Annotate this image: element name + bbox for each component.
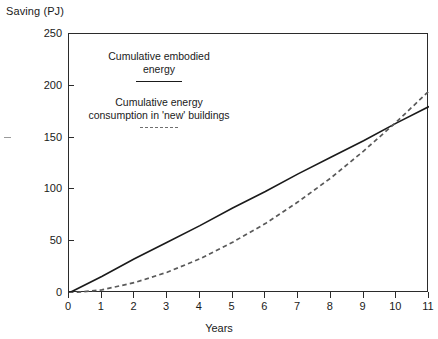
x-axis-title: Years [0,322,438,334]
x-tick-label: 3 [153,300,179,312]
legend-swatch-dashed [140,127,178,128]
x-tick-label: 8 [317,300,343,312]
x-tick-mark [166,292,167,298]
legend-label: Cumulative embodied energy [64,50,254,76]
x-tick-label: 2 [120,300,146,312]
stray-mark [4,137,11,138]
x-tick-mark [330,292,331,298]
x-tick-label: 5 [219,300,245,312]
y-tick-label: 250 [20,27,62,39]
x-tick-label: 6 [251,300,277,312]
x-tick-label: 0 [55,300,81,312]
x-tick-mark [101,292,102,298]
legend-entry-embodied-energy: Cumulative embodied energy [64,50,254,82]
y-tick-label: 50 [20,234,62,246]
x-tick-label: 1 [88,300,114,312]
y-tick-label: 100 [20,182,62,194]
x-tick-mark [297,292,298,298]
x-tick-label: 7 [284,300,310,312]
legend-label: Cumulative energy consumption in 'new' b… [64,96,254,122]
x-tick-mark [133,292,134,298]
x-tick-mark [199,292,200,298]
y-tick-label: 200 [20,79,62,91]
x-tick-label: 9 [350,300,376,312]
x-tick-mark [363,292,364,298]
x-tick-mark [264,292,265,298]
x-tick-label: 4 [186,300,212,312]
x-tick-mark [395,292,396,298]
chart-legend: Cumulative embodied energy Cumulative en… [64,50,254,142]
legend-entry-new-buildings: Cumulative energy consumption in 'new' b… [64,96,254,128]
x-tick-label: 10 [382,300,408,312]
x-tick-label: 11 [415,300,438,312]
y-tick-label: 150 [20,131,62,143]
legend-swatch-solid [136,81,182,82]
y-axis-title: Saving (PJ) [6,5,64,17]
x-tick-mark [68,292,69,298]
x-tick-mark [232,292,233,298]
y-tick-mark [68,240,74,241]
chart-figure: Saving (PJ) 050100150200250 012345678910… [0,0,438,339]
x-tick-mark [428,292,429,298]
y-tick-label: 0 [20,286,62,298]
y-tick-mark [68,188,74,189]
